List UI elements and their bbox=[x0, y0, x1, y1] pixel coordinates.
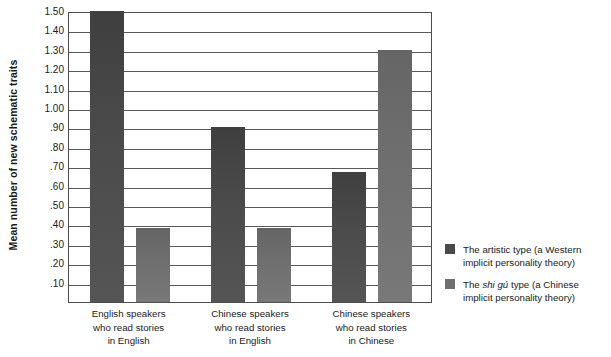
bar-shigu-group-2 bbox=[257, 228, 291, 302]
legend-entry-1[interactable]: The artistic type (a Western implicit pe… bbox=[445, 243, 611, 269]
legend-label-suffix: personality theory) bbox=[495, 257, 575, 268]
plot-area bbox=[68, 12, 432, 303]
y-tick-label: .90 bbox=[28, 123, 64, 133]
y-tick-label: .40 bbox=[28, 220, 64, 230]
bar-shigu-group-1 bbox=[136, 228, 170, 302]
legend-label: The shi gú type (a Chinese implicit pers… bbox=[463, 279, 579, 303]
y-tick-label: 1.50 bbox=[28, 7, 64, 17]
y-tick-label: .30 bbox=[28, 240, 64, 250]
y-axis-title-text: Mean number of new schematic traits bbox=[7, 60, 19, 251]
x-category-label-line: who read stories bbox=[191, 321, 309, 335]
legend-label-italic: shi gú bbox=[482, 279, 508, 290]
y-tick-label: .70 bbox=[28, 162, 64, 172]
x-category-label-3: Chinese speakerswho read storiesin Chine… bbox=[312, 307, 430, 348]
legend-entry-2[interactable]: The shi gú type (a Chinese implicit pers… bbox=[445, 278, 611, 304]
y-tick-label: .20 bbox=[28, 259, 64, 269]
x-category-label-line: in English bbox=[70, 334, 188, 348]
y-tick-label: 1.00 bbox=[28, 104, 64, 114]
y-tick-label: .10 bbox=[28, 279, 64, 289]
y-axis-tick-labels: 1.501.401.301.201.101.00.90.80.70.60.50.… bbox=[28, 0, 64, 357]
legend-label-prefix: The bbox=[463, 279, 482, 290]
y-tick-label: .80 bbox=[28, 143, 64, 153]
bars-layer bbox=[69, 13, 431, 302]
x-category-label-line: Chinese speakers bbox=[191, 307, 309, 321]
x-category-label-line: who read stories bbox=[70, 321, 188, 335]
bar-artistic-group-1 bbox=[90, 11, 124, 302]
x-category-label-line: who read stories bbox=[312, 321, 430, 335]
y-tick-label: 1.40 bbox=[28, 26, 64, 36]
x-category-label-line: Chinese speakers bbox=[312, 307, 430, 321]
x-axis-category-labels: English speakerswho read storiesin Engli… bbox=[68, 307, 432, 353]
legend-label: The artistic type (a Western implicit pe… bbox=[463, 244, 581, 268]
y-tick-label: 1.30 bbox=[28, 46, 64, 56]
x-category-label-line: English speakers bbox=[70, 307, 188, 321]
y-tick-label: .50 bbox=[28, 201, 64, 211]
bar-artistic-group-3 bbox=[332, 172, 366, 302]
legend-swatch-artistic bbox=[445, 244, 455, 254]
x-category-label-line: in English bbox=[191, 334, 309, 348]
legend-swatch-shigu bbox=[445, 279, 455, 289]
x-category-label-1: English speakerswho read storiesin Engli… bbox=[70, 307, 188, 348]
bar-artistic-group-2 bbox=[211, 127, 245, 302]
bar-shigu-group-3 bbox=[378, 50, 412, 302]
y-axis-title: Mean number of new schematic traits bbox=[0, 0, 26, 310]
y-tick-label: 1.10 bbox=[28, 85, 64, 95]
x-category-label-2: Chinese speakerswho read storiesin Engli… bbox=[191, 307, 309, 348]
y-tick-label: .60 bbox=[28, 182, 64, 192]
y-tick-label: 1.20 bbox=[28, 65, 64, 75]
chart-legend: The artistic type (a Western implicit pe… bbox=[445, 243, 611, 313]
x-category-label-line: in Chinese bbox=[312, 334, 430, 348]
